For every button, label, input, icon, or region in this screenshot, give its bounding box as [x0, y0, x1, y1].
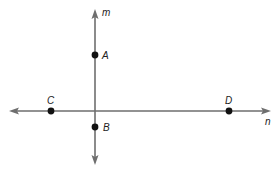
label-point-c: C [47, 96, 54, 106]
label-line-n: n [265, 117, 271, 127]
diagram-canvas [0, 0, 279, 183]
point-d [226, 108, 233, 115]
label-point-a: A [102, 51, 109, 61]
label-point-b: B [103, 123, 110, 133]
label-point-d: D [225, 96, 232, 106]
geometry-diagram: m n A B C D [0, 0, 279, 183]
line-m [92, 9, 99, 165]
point-a [92, 52, 99, 59]
point-b [92, 124, 99, 131]
point-c [48, 108, 55, 115]
label-line-m: m [102, 8, 110, 18]
